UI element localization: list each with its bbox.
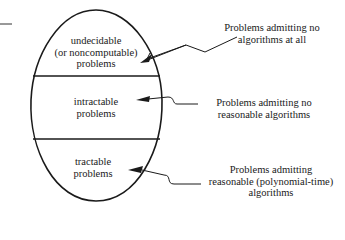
region-label-tractable: tractable problems	[73, 156, 112, 179]
region-line: undecidable	[54, 35, 137, 47]
arrowhead-icon	[140, 54, 152, 63]
annotation-line: reasonable algorithms	[216, 109, 312, 121]
region-label-intractable: intractable problems	[74, 96, 118, 119]
arrow-intractable	[136, 96, 198, 104]
annotation-no-reasonable-algorithms: Problems admitting no reasonable algorit…	[216, 97, 312, 120]
annotation-line: Problems admitting no	[216, 97, 312, 109]
region-line: intractable	[74, 96, 118, 108]
region-line: problems	[73, 168, 112, 180]
arrowhead-icon	[136, 96, 150, 102]
annotation-no-algorithms: Problems admitting no algorithms at all	[224, 22, 320, 45]
region-line: tractable	[73, 156, 112, 168]
annotation-polynomial-time: Problems admitting reasonable (polynomia…	[209, 164, 334, 199]
annotation-line: reasonable (polynomial-time)	[209, 176, 334, 188]
region-line: problems	[74, 108, 118, 120]
annotation-line: algorithms	[209, 187, 334, 199]
annotation-line: Problems admitting	[209, 164, 334, 176]
region-line: (or noncomputable)	[54, 47, 137, 59]
arrowhead-icon	[128, 166, 143, 173]
region-label-undecidable: undecidable (or noncomputable) problems	[54, 35, 137, 70]
annotation-line: algorithms at all	[224, 34, 320, 46]
region-line: problems	[54, 58, 137, 70]
annotation-line: Problems admitting no	[224, 22, 320, 34]
arrow-tractable	[128, 166, 201, 184]
